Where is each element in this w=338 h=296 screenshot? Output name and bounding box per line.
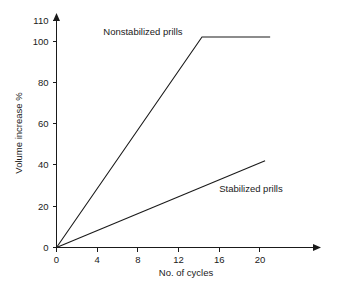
x-axis-title: No. of cycles (159, 267, 214, 278)
series-line-nonstabilized-prills (57, 37, 271, 247)
x-tick-label: 0 (54, 254, 59, 265)
y-tick-label: 80 (38, 77, 49, 88)
y-tick-label: 0 (43, 242, 48, 253)
x-tick-label: 12 (173, 254, 184, 265)
y-tick-label-group: 020406080100110 (33, 15, 49, 253)
chart-container: 020406080100110 Volume increase % 048121… (0, 0, 338, 296)
y-tick-label: 100 (33, 36, 49, 47)
series-annotation-group: Nonstabilized prillsStabilized prills (103, 26, 283, 194)
series-annotation-stabilized-prills: Stabilized prills (219, 183, 283, 194)
y-tick-label: 40 (38, 159, 49, 170)
x-axis-arrow-icon (313, 244, 321, 251)
y-tick-label: 20 (38, 201, 49, 212)
y-axis-title: Volume increase % (13, 92, 24, 174)
series-line-stabilized-prills (57, 161, 266, 248)
y-axis: 020406080100110 Volume increase % (13, 13, 60, 253)
y-axis-arrow-icon (53, 13, 60, 21)
x-axis: 048121620 No. of cycles (54, 244, 321, 278)
x-tick-label: 16 (214, 254, 225, 265)
x-tick-label: 4 (95, 254, 100, 265)
x-tick-label-group: 048121620 (54, 254, 265, 265)
data-series-group (57, 37, 271, 247)
x-tick-label: 8 (135, 254, 140, 265)
y-tick-label: 60 (38, 118, 49, 129)
x-tick-label: 20 (255, 254, 266, 265)
volume-increase-vs-cycles-chart: 020406080100110 Volume increase % 048121… (0, 0, 338, 296)
y-tick-group (53, 21, 57, 248)
x-tick-group (57, 248, 260, 252)
y-tick-label: 110 (33, 15, 48, 26)
series-annotation-nonstabilized-prills: Nonstabilized prills (103, 26, 182, 37)
